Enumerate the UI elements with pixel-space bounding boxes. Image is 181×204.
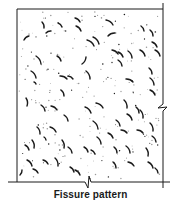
aggregate-speckles	[19, 11, 160, 179]
speckle-dot	[104, 42, 105, 43]
speckle-dot	[132, 146, 133, 147]
speckle-dot	[118, 44, 119, 45]
fissure-mark	[126, 79, 133, 82]
fissure-mark	[93, 121, 98, 129]
fissure-mark	[149, 68, 152, 74]
fissure-pattern-figure	[0, 0, 181, 204]
speckle-dot	[54, 33, 55, 34]
fissure-mark	[55, 158, 58, 166]
speckle-dot	[157, 16, 158, 17]
speckle-dot	[87, 165, 88, 166]
speckle-dot	[144, 38, 145, 39]
speckle-dot	[33, 58, 34, 59]
speckle-dot	[150, 59, 151, 60]
fissure-mark	[82, 57, 86, 64]
speckle-dot	[25, 79, 26, 80]
speckle-dot	[35, 36, 37, 38]
speckle-dot	[100, 69, 101, 70]
speckle-dot	[50, 83, 51, 84]
speckle-dot	[156, 124, 157, 125]
speckle-dot	[96, 49, 97, 50]
fissure-mark	[152, 42, 157, 47]
speckle-dot	[155, 31, 156, 32]
speckle-dot	[103, 116, 104, 117]
speckle-dot	[112, 57, 113, 58]
speckle-dot	[158, 118, 159, 119]
fissure-mark	[61, 90, 64, 96]
speckle-dot	[106, 129, 107, 130]
speckle-dot	[120, 91, 121, 92]
speckle-dot	[110, 78, 111, 79]
speckle-dot	[115, 124, 116, 125]
speckle-dot	[33, 176, 34, 177]
fissure-mark	[50, 127, 56, 132]
fissure-mark	[44, 137, 46, 140]
speckle-dot	[102, 63, 104, 65]
speckle-dot	[88, 87, 89, 88]
speckle-dot	[20, 22, 21, 23]
speckle-dot	[69, 74, 70, 75]
speckle-dot	[58, 72, 60, 74]
speckle-dot	[138, 30, 140, 32]
fissure-mark	[43, 160, 48, 164]
speckle-dot	[63, 156, 64, 157]
fissure-mark	[112, 50, 118, 54]
speckle-dot	[148, 57, 149, 58]
fissure-mark	[150, 78, 154, 85]
fissure-mark	[150, 90, 155, 95]
speckle-dot	[124, 14, 126, 16]
speckle-dot	[119, 150, 120, 151]
speckle-dot	[86, 91, 87, 92]
speckle-dot	[131, 43, 132, 44]
speckle-dot	[81, 16, 83, 18]
speckle-dot	[148, 136, 149, 137]
speckle-dot	[42, 12, 43, 13]
fissure-mark	[51, 106, 57, 110]
fissure-mark	[42, 22, 44, 28]
speckle-dot	[157, 89, 158, 90]
fissure-mark	[128, 51, 132, 58]
speckle-dot	[101, 17, 103, 19]
speckle-dot	[115, 53, 116, 54]
speckle-dot	[48, 143, 50, 145]
speckle-dot	[132, 151, 133, 152]
speckle-dot	[94, 31, 95, 32]
fissure-mark	[127, 114, 132, 120]
fissure-mark	[106, 20, 113, 25]
speckle-dot	[22, 153, 23, 154]
fissure-mark	[31, 71, 36, 78]
speckle-dot	[138, 120, 139, 121]
speckle-dot	[25, 68, 26, 69]
bottom-edge-line	[8, 176, 170, 188]
fissure-mark	[121, 130, 127, 133]
speckle-dot	[115, 139, 117, 141]
speckle-dot	[101, 160, 102, 161]
fissure-mark	[27, 160, 32, 166]
fissure-mark	[84, 147, 88, 152]
speckle-dot	[48, 110, 49, 111]
speckle-dot	[64, 30, 65, 31]
speckle-dot	[67, 12, 68, 13]
speckle-dot	[93, 95, 94, 96]
speckle-dot	[58, 153, 59, 154]
speckle-dot	[103, 81, 104, 82]
speckle-dot	[59, 99, 60, 100]
speckle-dot	[49, 90, 51, 92]
speckle-dot	[94, 16, 95, 17]
speckle-dot	[127, 61, 128, 62]
speckle-dot	[39, 84, 40, 85]
speckle-dot	[147, 114, 148, 115]
fissure-mark	[41, 105, 45, 111]
speckle-dot	[74, 38, 75, 39]
fissure-mark	[46, 31, 51, 33]
speckle-dot	[119, 49, 120, 50]
speckle-dot	[45, 18, 46, 19]
fissure-mark	[85, 107, 91, 113]
speckle-dot	[39, 102, 40, 103]
speckle-dot	[58, 144, 60, 146]
speckle-dot	[94, 11, 95, 12]
speckle-dot	[78, 118, 79, 119]
speckle-dot	[95, 174, 97, 176]
speckle-dot	[158, 120, 159, 121]
speckle-dot	[97, 15, 98, 16]
